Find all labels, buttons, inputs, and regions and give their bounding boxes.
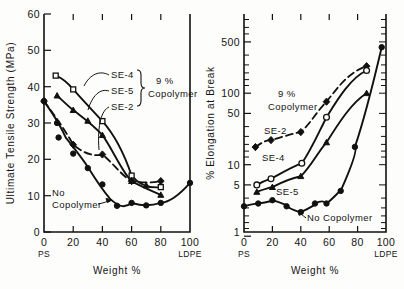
left-y-tick-30: 30 <box>28 117 40 129</box>
left-label-se5: SE-5 <box>111 85 134 96</box>
right-x-start-label: PS <box>238 249 250 259</box>
right-x-tick-100: 100 <box>377 236 396 248</box>
left-y-tick-0: 0 <box>34 226 40 238</box>
left-y-axis-title: Ultimate Tensile Strength (MPa) <box>5 42 16 205</box>
right-y-minor-ticks <box>244 20 386 229</box>
left-x-end-label: LDPE <box>178 249 201 259</box>
left-curve-no-copolymer <box>44 101 190 206</box>
right-label-copolymer-pct: 9 % <box>278 88 296 99</box>
left-y-tick-labels: 60 50 40 30 20 10 0 <box>28 8 40 238</box>
left-x-tick-80: 80 <box>155 236 167 248</box>
left-curve-se2 <box>44 101 161 182</box>
right-y-tick-labels: 500 100 50 10 5 1 <box>221 36 240 238</box>
right-y-tick-10: 10 <box>228 159 240 171</box>
left-y-tick-20: 20 <box>28 153 40 165</box>
left-x-start-label: PS <box>38 249 50 259</box>
left-x-axis-title: Weight % <box>93 265 141 276</box>
left-label-copolymer-pct: 9 % <box>156 75 174 86</box>
left-x-tick-60: 60 <box>125 236 137 248</box>
right-x-axis-title: Weight % <box>291 265 339 276</box>
left-x-tick-100: 100 <box>181 236 200 248</box>
left-y-ticks <box>44 14 51 232</box>
left-panel: 60 50 40 30 20 10 0 0 20 40 60 80 100 <box>5 8 202 276</box>
left-markers-se2 <box>41 98 164 185</box>
left-label-se4: SE-4 <box>111 69 134 80</box>
right-label-copolymer: Copolymer <box>268 101 318 112</box>
right-x-tick-80: 80 <box>351 236 363 248</box>
right-y-tick-5: 5 <box>234 179 240 191</box>
right-x-tick-labels: 0 20 40 60 80 100 <box>241 236 395 248</box>
left-y-tick-10: 10 <box>28 190 40 202</box>
right-label-no-copolymer: No Copolymer <box>307 212 373 223</box>
left-y-tick-40: 40 <box>28 81 40 93</box>
figure-svg: 60 50 40 30 20 10 0 0 20 40 60 80 100 <box>0 0 404 289</box>
left-label-copolymer: Copolymer <box>148 88 198 99</box>
right-x-tick-20: 20 <box>266 236 278 248</box>
right-label-se2: SE-2 <box>264 125 287 136</box>
right-panel: 500 100 50 10 5 1 0 20 40 60 80 100 PS L… <box>205 14 398 276</box>
right-y-tick-1: 1 <box>234 226 240 238</box>
right-x-end-label: LDPE <box>374 249 397 259</box>
right-y-tick-100: 100 <box>221 87 240 99</box>
right-label-se5: SE-5 <box>276 186 299 197</box>
left-x-tick-20: 20 <box>67 236 79 248</box>
left-y-tick-60: 60 <box>28 8 40 20</box>
left-x-tick-0: 0 <box>41 236 47 248</box>
right-x-tick-0: 0 <box>241 236 247 248</box>
left-x-tick-40: 40 <box>96 236 108 248</box>
right-x-tick-40: 40 <box>295 236 307 248</box>
right-x-tick-60: 60 <box>323 236 335 248</box>
right-label-se4: SE-4 <box>262 152 285 163</box>
left-label-no: No <box>52 187 65 198</box>
right-y-tick-500: 500 <box>221 36 240 48</box>
right-y-axis-title: % Elongation at Break <box>205 66 216 180</box>
right-x-ticks <box>272 14 357 232</box>
left-label-se2: SE-2 <box>111 101 134 112</box>
left-x-tick-labels: 0 20 40 60 80 100 <box>41 236 199 248</box>
left-y-tick-50: 50 <box>28 44 40 56</box>
right-y-tick-50: 50 <box>228 107 240 119</box>
figure-container: 60 50 40 30 20 10 0 0 20 40 60 80 100 <box>0 0 404 289</box>
right-plot-frame <box>244 14 386 232</box>
left-label-no-copolymer: Copolymer <box>52 199 102 210</box>
